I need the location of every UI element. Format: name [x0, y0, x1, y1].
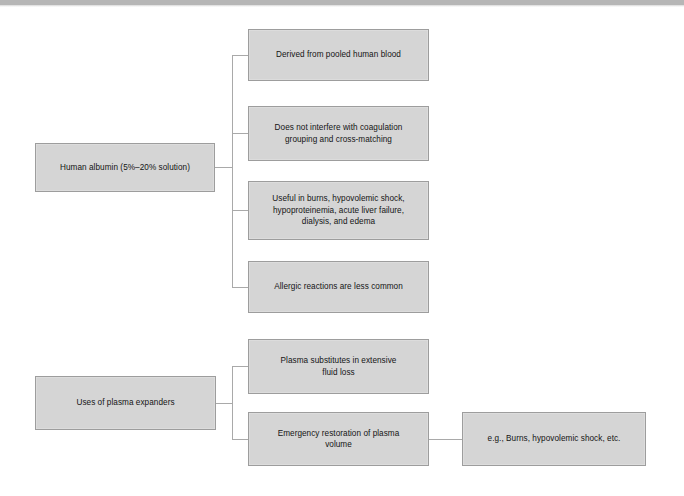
- node-label: Allergic reactions are less common: [274, 281, 403, 293]
- node-emergency-restoration-of-plasma-volume[interactable]: Emergency restoration of plasma volume: [248, 412, 429, 466]
- node-derived-from-pooled-human-blood[interactable]: Derived from pooled human blood: [248, 29, 429, 81]
- node-uses-of-plasma-expanders-root[interactable]: Uses of plasma expanders: [35, 376, 216, 430]
- node-plasma-substitutes-in-extensive-fluid-loss[interactable]: Plasma substitutes in extensive fluid lo…: [248, 339, 429, 394]
- connector-plasma-child-1: [232, 366, 248, 367]
- connector-albumin-child-3: [232, 210, 248, 211]
- connector-plasma-child-2: [232, 439, 248, 440]
- connector-albumin-child-4: [232, 287, 248, 288]
- node-label: Human albumin (5%–20% solution): [60, 162, 190, 174]
- node-label: Derived from pooled human blood: [276, 49, 401, 61]
- connector-plasma-root-stub: [216, 403, 233, 404]
- connector-emergency-to-examples: [429, 439, 462, 440]
- node-label: Useful in burns, hypovolemic shock, hypo…: [272, 193, 404, 228]
- node-does-not-interfere-with-coagulation[interactable]: Does not interfere with coagulation grou…: [248, 106, 429, 161]
- top-border-shadow: [0, 5, 684, 7]
- node-examples-burns-hypovolemic-shock[interactable]: e.g., Burns, hypovolemic shock, etc.: [462, 412, 646, 466]
- node-label: Does not interfere with coagulation grou…: [275, 122, 403, 145]
- connector-albumin-root-stub: [215, 167, 233, 168]
- node-allergic-reactions-are-less-common[interactable]: Allergic reactions are less common: [248, 261, 429, 313]
- node-label: Uses of plasma expanders: [76, 397, 174, 409]
- node-label: e.g., Burns, hypovolemic shock, etc.: [488, 433, 621, 445]
- connector-albumin-child-2: [232, 133, 248, 134]
- connector-albumin-trunk: [232, 55, 233, 287]
- connector-plasma-trunk: [232, 366, 233, 440]
- node-useful-in-burns[interactable]: Useful in burns, hypovolemic shock, hypo…: [248, 181, 429, 240]
- node-label: Emergency restoration of plasma volume: [278, 428, 400, 451]
- node-human-albumin-root[interactable]: Human albumin (5%–20% solution): [35, 143, 215, 192]
- node-label: Plasma substitutes in extensive fluid lo…: [281, 355, 397, 378]
- connector-albumin-child-1: [232, 55, 248, 56]
- diagram-canvas: Human albumin (5%–20% solution) Derived …: [0, 0, 684, 496]
